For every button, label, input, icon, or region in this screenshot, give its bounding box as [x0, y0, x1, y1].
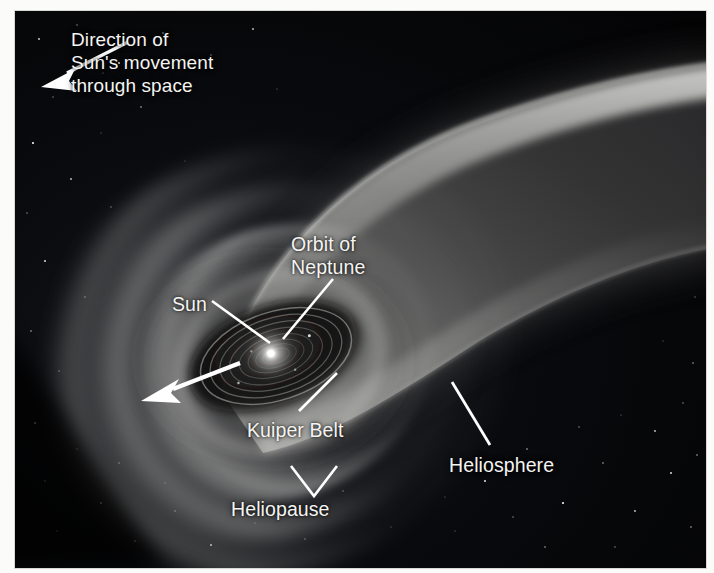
scene-graphic	[15, 11, 706, 568]
heliosphere-illustration: Direction of Sun's movement through spac…	[15, 11, 706, 568]
figure-root: Direction of Sun's movement through spac…	[0, 0, 714, 573]
